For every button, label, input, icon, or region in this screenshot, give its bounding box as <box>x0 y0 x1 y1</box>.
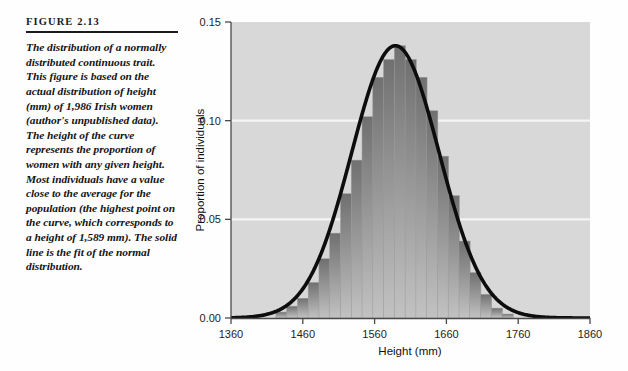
caption-divider <box>26 31 178 33</box>
histogram-bar <box>394 46 405 318</box>
histogram-bar <box>481 294 492 318</box>
x-tick-label: 1760 <box>506 328 530 340</box>
histogram-bar <box>448 196 459 318</box>
histogram-bar <box>405 59 416 318</box>
gridlines <box>231 121 590 220</box>
histogram-bar <box>340 194 351 318</box>
histogram-bar <box>416 77 427 318</box>
normal-distribution-curve <box>231 46 590 318</box>
x-tick-label: 1560 <box>362 328 386 340</box>
x-tick-label: 1460 <box>291 328 315 340</box>
histogram-bar <box>437 156 448 318</box>
histogram-bar <box>362 117 373 318</box>
x-tick-label: 1860 <box>578 328 602 340</box>
y-tick-label: 0.05 <box>200 213 221 225</box>
figure-container: FIGURE 2.13 The distribution of a normal… <box>0 0 628 371</box>
x-axis-title: Height (mm) <box>378 345 441 357</box>
histogram-bar <box>373 77 384 318</box>
figure-caption-text: The distribution of a normally distribut… <box>26 40 178 274</box>
histogram-bar <box>287 306 298 318</box>
x-tick-label: 1660 <box>434 328 458 340</box>
histogram-bar <box>297 298 308 318</box>
figure-number-label: FIGURE 2.13 <box>26 16 178 27</box>
histogram-bar <box>384 59 395 318</box>
y-tick-label: 0.00 <box>200 312 221 324</box>
histogram-bars <box>276 46 513 318</box>
y-tick-label: 0.15 <box>200 16 221 28</box>
histogram-bar <box>330 233 341 318</box>
x-tick-label: 1360 <box>219 328 243 340</box>
y-tick-label: 0.10 <box>200 115 221 127</box>
y-axis-ticks: 0.000.050.100.15 <box>200 16 231 324</box>
x-axis-ticks: 136014601560166017601860 <box>219 318 602 340</box>
histogram-bar <box>491 308 502 318</box>
plot-area-background <box>231 22 590 318</box>
histogram-bar <box>319 259 330 318</box>
histogram-bar <box>502 314 513 318</box>
histogram-bar <box>351 160 362 318</box>
y-axis-title: Proportion of individuals <box>194 108 206 231</box>
axes <box>231 22 590 319</box>
histogram-bar <box>427 111 438 318</box>
histogram-bar <box>308 282 319 318</box>
figure-caption-block: FIGURE 2.13 The distribution of a normal… <box>26 16 178 274</box>
histogram-bar <box>276 312 287 318</box>
histogram-bar <box>459 241 470 318</box>
histogram-bar <box>470 273 481 318</box>
